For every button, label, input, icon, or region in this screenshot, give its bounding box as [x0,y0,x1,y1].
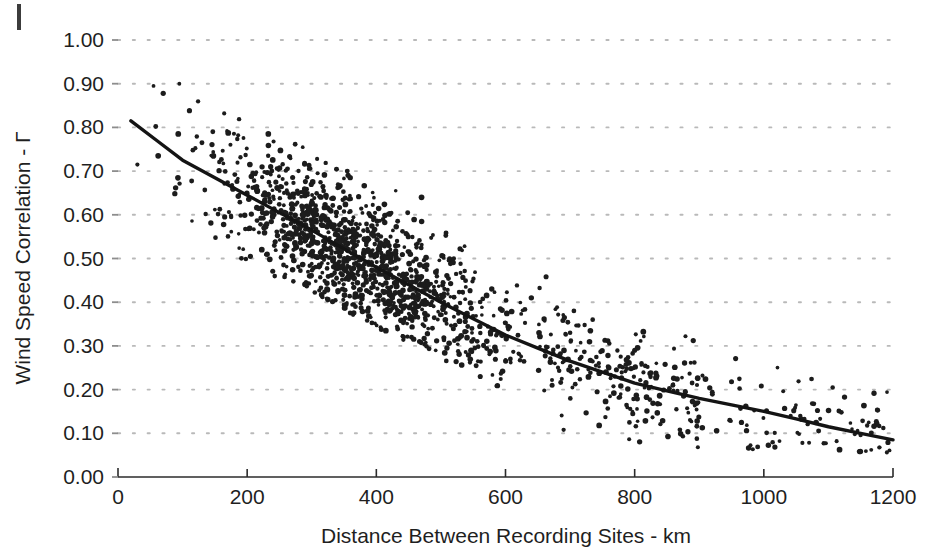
scatter-point [289,222,293,226]
scatter-point [639,361,644,366]
scatter-point [317,288,321,292]
scatter-point [755,444,760,449]
scatter-point [375,287,379,291]
scatter-point [536,368,541,373]
scatter-point [419,194,425,200]
scatter-point [446,341,452,347]
scatter-point [365,249,370,254]
scatter-point [869,448,873,452]
scatter-point [272,139,276,143]
scatter-point [373,322,377,326]
scatter-point [495,384,499,388]
scatter-point [387,303,391,307]
y-tick-label-0.70: 0.70 [63,159,104,182]
scatter-point [356,194,361,199]
scatter-point [452,295,457,300]
scatter-point [396,312,401,317]
scatter-point [401,320,406,325]
scatter-point [423,301,428,306]
scatter-point [370,276,374,280]
scatter-point [408,252,414,258]
scatter-point [744,428,749,433]
scatter-point [632,348,637,353]
y-tick-label-0.50: 0.50 [63,247,104,270]
scatter-point [334,251,338,255]
scatter-point [452,338,457,343]
y-tick-label-0.90: 0.90 [63,72,104,95]
scatter-point [508,357,513,362]
scatter-point [446,276,451,281]
x-tick-label-600: 600 [488,485,523,508]
scatter-point [237,117,241,121]
scatter-point [361,264,365,268]
scatter-point [465,324,470,329]
scatter-point [861,403,867,409]
scatter-point [288,237,292,241]
scatter-point [266,143,272,149]
scatter-point [422,324,426,328]
scatter-point [776,366,780,370]
scatter-point [605,353,610,358]
scatter-point [372,242,377,247]
scatter-point [199,140,204,145]
scatter-point [266,154,270,158]
scatter-point [504,358,508,362]
y-tick-label-0.40: 0.40 [63,290,104,313]
scatter-point [374,293,379,298]
scatter-point [632,375,636,379]
gridlines-group [118,40,893,433]
scatter-point [347,294,352,299]
scatter-point [322,172,328,178]
scatter-point [361,228,366,233]
scatter-point [469,326,474,331]
scatter-point [583,410,588,415]
scatter-point [277,174,281,178]
scatter-point [208,220,213,225]
scatter-point [696,400,700,404]
scatter-point [232,172,237,177]
figure-root: 0.000.100.200.300.400.500.600.700.800.90… [0,0,927,556]
scatter-point [366,313,372,319]
scatter-point [624,362,629,367]
scatter-point [432,285,436,289]
scatter-point [463,244,467,248]
scatter-point [397,257,401,261]
scatter-point [232,132,236,136]
scatter-point [692,360,697,365]
scatter-point [759,384,764,389]
scatter-point [440,295,445,300]
scatter-point [371,191,375,195]
scatter-point [393,243,398,248]
scatter-point [746,445,752,451]
scatter-point [203,212,207,216]
scatter-point [345,169,350,174]
y-tick-label-0.80: 0.80 [63,115,104,138]
scatter-point [791,408,796,413]
scatter-point [305,175,310,180]
scatter-point [217,160,221,164]
scatter-point [348,175,353,180]
scatter-point [635,407,639,411]
scatter-point [456,342,460,346]
scatter-point [310,253,316,259]
scatter-point [416,316,420,320]
scatter-point [478,374,483,379]
scatter-point [342,282,346,286]
scatter-point [388,286,392,290]
scatter-point [729,379,734,384]
scatter-point [573,382,578,387]
scatter-point [476,344,481,349]
y-tick-label-1.00: 1.00 [63,28,104,51]
scatter-point [393,224,399,230]
scatter-point [503,321,508,326]
scatter-point [440,283,445,288]
scatter-point [226,234,231,239]
scatter-point [582,323,586,327]
scatter-point [336,290,340,294]
scatter-point [348,209,353,214]
scatter-point [268,199,273,204]
scatter-point [476,359,480,363]
scatter-point [411,217,417,223]
scatter-point [576,323,581,328]
y-tick-label-0.60: 0.60 [63,203,104,226]
